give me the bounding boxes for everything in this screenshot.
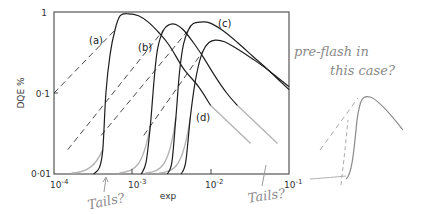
series-d xyxy=(181,40,289,174)
note-tails-right: Tails? xyxy=(247,185,287,205)
x-tick-1e-2: 10-2 xyxy=(205,178,223,190)
dqe-curves xyxy=(94,14,289,174)
x-tick-1e-4: 10-4 xyxy=(50,178,69,190)
dashed-asymptotes xyxy=(54,30,203,150)
series-c xyxy=(167,22,289,174)
series-a-asymptote xyxy=(54,30,115,93)
label-a: (a) xyxy=(89,35,103,46)
y-tick-0.1: 0·1 xyxy=(36,89,50,99)
y-axis: 1 0·1 0·01 DQE % xyxy=(16,8,58,179)
y-tick-1: 1 xyxy=(41,8,47,18)
label-b: (b) xyxy=(138,42,152,53)
note-preflash-2: this case? xyxy=(330,63,396,78)
note-tails-left: Tails? xyxy=(86,190,127,213)
preflash-sketch-base xyxy=(310,176,346,179)
note-preflash-1: pre-flash in xyxy=(294,44,369,59)
preflash-sketch-dashed xyxy=(320,98,358,150)
y-axis-label: DQE % xyxy=(16,77,26,109)
x-tick-1e-3: 10-3 xyxy=(128,178,146,190)
tail-ext-b xyxy=(238,106,278,144)
dqe-chart: 1 0·1 0·01 DQE % 10-4 10-3 10-2 10-1 exp… xyxy=(0,0,428,214)
preflash-sketch-curve xyxy=(346,97,403,179)
label-c: (c) xyxy=(218,18,231,29)
preflash-sketch-vertical xyxy=(341,120,348,185)
x-tick-1e-1: 10-1 xyxy=(284,178,302,190)
x-axis-label: exp xyxy=(160,191,177,201)
tail-ext-a xyxy=(211,106,251,144)
y-tick-0.01: 0·01 xyxy=(31,169,51,179)
label-d: (d) xyxy=(196,112,210,123)
series-b xyxy=(141,24,237,174)
